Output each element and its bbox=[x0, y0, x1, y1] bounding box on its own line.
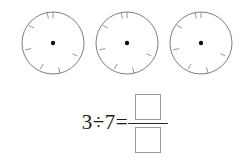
numerator-answer-box[interactable] bbox=[135, 94, 161, 120]
denominator-answer-box[interactable] bbox=[135, 127, 161, 153]
center-dot bbox=[51, 41, 55, 45]
center-dot bbox=[199, 41, 203, 45]
equation-row: 3÷7= bbox=[0, 86, 250, 161]
fraction-bar bbox=[128, 123, 168, 124]
answer-fraction bbox=[128, 93, 168, 154]
numerator-wrap bbox=[135, 93, 161, 122]
division-equation: 3÷7= bbox=[0, 86, 250, 161]
circle-figure-2[interactable] bbox=[90, 0, 164, 86]
center-dot bbox=[125, 41, 129, 45]
circle-svg-2 bbox=[90, 0, 164, 86]
circle-svg-1 bbox=[16, 0, 90, 86]
denominator-wrap bbox=[135, 125, 161, 154]
worksheet-page: 3÷7= bbox=[0, 0, 250, 161]
equation-left-side: 3÷7= bbox=[82, 112, 128, 134]
circle-svg-3 bbox=[164, 0, 238, 86]
circle-figure-3[interactable] bbox=[164, 0, 238, 86]
circles-row bbox=[0, 0, 250, 86]
circle-figure-1[interactable] bbox=[16, 0, 90, 86]
equation-inner: 3÷7= bbox=[82, 93, 168, 154]
